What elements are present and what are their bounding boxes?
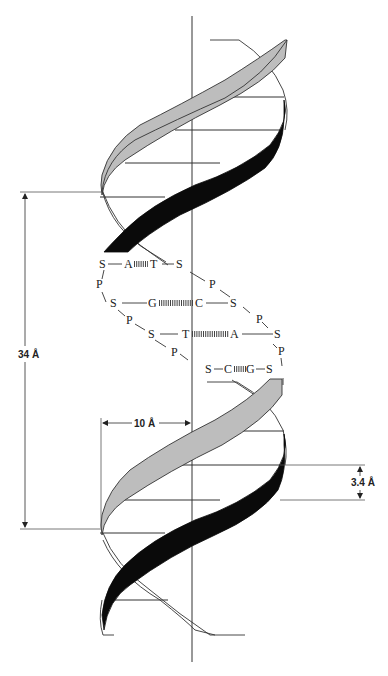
base-label: A [124,257,133,271]
strand-dark-lower [102,434,285,630]
base-label: C [195,296,203,310]
base-label: G [246,362,255,376]
phosphate-label: P [126,313,133,327]
base-label: C [224,362,232,376]
diagram-canvas: S A T S P P S G C S P P S T A S P P S C … [0,0,388,676]
base-label: T [182,327,190,341]
phosphate-label: P [278,344,285,358]
sugar-label: S [230,296,237,310]
sugar-label: S [110,296,117,310]
base-pair-ladder: S A T S P P S G C S P P S T A S P P S C … [96,257,285,385]
lower-helix-segment [100,379,286,635]
radius-label: 10 Å [134,417,155,429]
rise-label: 3.4 Å [351,476,375,488]
sugar-label: S [99,257,106,271]
sugar-label: S [274,327,281,341]
base-label: A [230,327,239,341]
sugar-label: S [176,257,183,271]
base-label: T [150,257,158,271]
phosphate-label: P [96,277,103,291]
pitch-dimension: 34 Å [18,192,102,529]
base-label: G [148,296,157,310]
dna-helix-diagram: S A T S P P S G C S P P S T A S P P S C … [0,0,388,676]
strand-dark-upper [104,100,285,252]
phosphate-label: P [256,312,263,326]
rise-dimension: 3.4 Å [280,465,375,500]
sugar-label: S [148,327,155,341]
phosphate-label: P [171,345,178,359]
phosphate-label: P [209,277,216,291]
sugar-label: S [266,362,273,376]
sugar-label: S [205,362,212,376]
pitch-label: 34 Å [18,348,39,360]
upper-helix-segment [100,40,287,265]
